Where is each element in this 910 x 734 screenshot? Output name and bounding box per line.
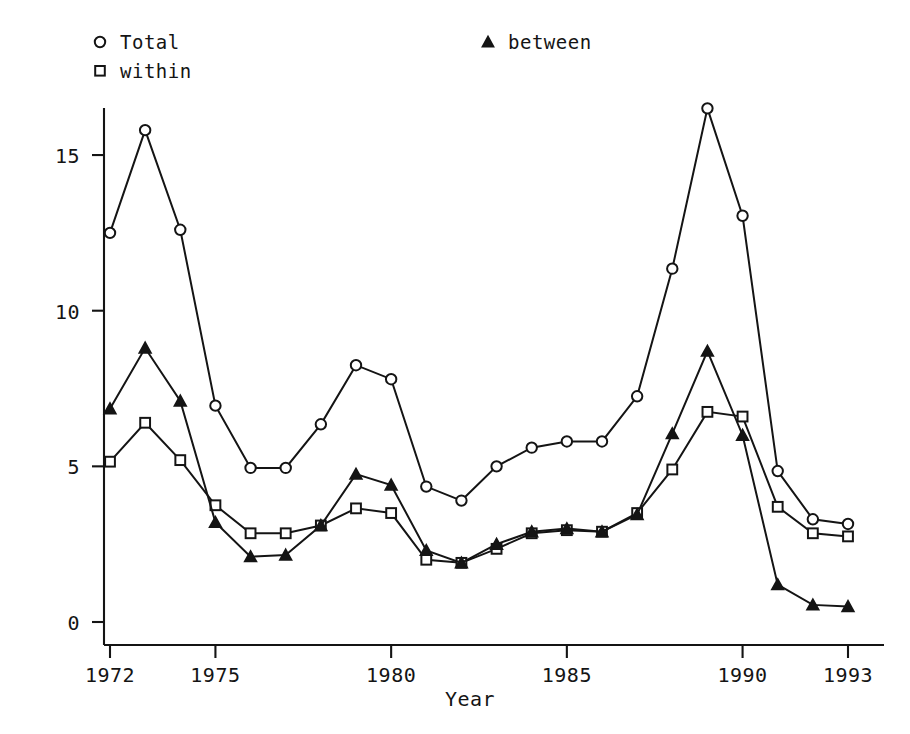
data-point-square [386,508,396,518]
data-point-square [351,503,361,513]
data-point-circle [667,263,677,273]
data-point-square [175,455,185,465]
data-point-triangle [420,545,432,556]
data-point-square [421,555,431,565]
data-point-square [667,465,677,475]
y-tick-label: 0 [67,611,80,635]
x-axis-title: Year [445,687,495,711]
series-layer [104,103,854,611]
y-tick-label: 5 [67,455,80,479]
x-tick-label: 1972 [85,663,135,687]
legend-entry-between: between [482,31,591,53]
data-point-circle [491,461,501,471]
data-point-circle [210,400,220,410]
data-point-circle [527,442,537,452]
x-tick-label: 1975 [190,663,240,687]
y-axis-ticks: 051015 [55,144,104,635]
data-point-circle [175,225,185,235]
x-tick-label: 1985 [542,663,592,687]
data-point-triangle [666,428,678,439]
x-axis-ticks: 197219751980198519901993 [85,645,873,687]
chart-axes [104,108,884,645]
y-tick-label: 15 [55,144,80,168]
data-point-circle [316,419,326,429]
legend-entry-within: within [95,60,191,82]
legend-label-between: between [508,31,592,53]
data-point-circle [737,211,747,221]
series-between [104,342,854,611]
data-point-triangle [174,395,186,406]
data-point-circle [456,495,466,505]
data-point-circle [597,436,607,446]
data-point-triangle [104,403,116,414]
data-point-circle [140,125,150,135]
data-point-square [246,528,256,538]
data-point-circle [632,391,642,401]
data-point-circle [562,436,572,446]
data-point-circle [281,463,291,473]
data-point-circle [843,519,853,529]
legend-entry-total: Total [95,31,180,53]
legend-label-total: Total [120,31,180,53]
data-point-circle [773,466,783,476]
chart-figure: Total within between 051015 197219751980… [0,0,910,734]
series-line [110,348,848,606]
data-point-circle [105,228,115,238]
data-point-circle [808,514,818,524]
data-point-square [281,528,291,538]
data-point-square [703,407,713,417]
data-point-circle [702,103,712,113]
data-point-circle [421,481,431,491]
data-point-square [843,531,853,541]
y-tick-label: 10 [55,300,80,324]
data-point-circle [245,463,255,473]
data-point-triangle [702,345,714,356]
square-open-icon [95,66,105,76]
series-line [110,108,848,524]
data-point-triangle [350,468,362,479]
series-total [105,103,853,529]
series-line [110,412,848,563]
x-tick-label: 1990 [717,663,767,687]
data-point-square [773,502,783,512]
x-tick-label: 1993 [823,663,873,687]
data-point-triangle [139,342,151,353]
data-point-circle [386,374,396,384]
data-point-square [738,412,748,422]
legend-label-within: within [120,60,192,82]
line-chart: Total within between 051015 197219751980… [0,0,910,734]
data-point-square [105,457,115,467]
data-point-circle [351,360,361,370]
chart-legend: Total within between [95,31,592,82]
data-point-square [808,528,818,538]
triangle-solid-icon [482,37,493,47]
data-point-triangle [772,579,784,590]
data-point-square [140,418,150,428]
circle-open-icon [95,37,105,47]
data-point-triangle [737,429,749,440]
x-tick-label: 1980 [366,663,416,687]
data-point-triangle [210,517,222,528]
